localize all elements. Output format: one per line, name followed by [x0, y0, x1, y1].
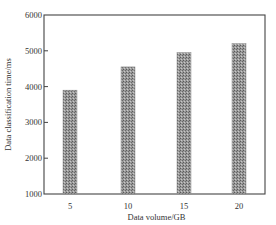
bar-15: [177, 53, 191, 194]
x-axis: 5101520: [68, 201, 243, 211]
x-tick-label: 15: [180, 201, 189, 211]
y-tick-label: 4000: [25, 82, 42, 92]
x-tick-label: 5: [68, 201, 72, 211]
y-tick-label: 3000: [25, 117, 42, 127]
bar-chart: 100020003000400050006000 5101520 Data vo…: [0, 0, 276, 225]
y-tick-label: 2000: [25, 153, 42, 163]
bar-10: [121, 67, 135, 194]
x-tick-label: 20: [235, 201, 244, 211]
x-tick-label: 10: [124, 201, 133, 211]
y-tick-label: 1000: [25, 189, 42, 199]
y-tick-label: 6000: [25, 10, 42, 20]
bar-20: [232, 44, 246, 194]
x-axis-title: Data volume/GB: [128, 212, 186, 222]
y-tick-label: 5000: [25, 46, 42, 56]
bar-5: [63, 90, 77, 194]
y-axis-title: Data classification time/ms: [3, 58, 13, 151]
bars: [63, 44, 246, 194]
